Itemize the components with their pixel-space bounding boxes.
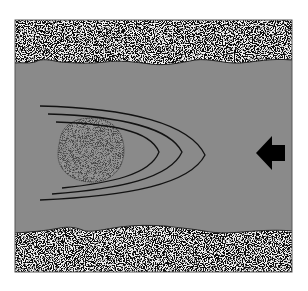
channel-diagram <box>0 0 308 291</box>
